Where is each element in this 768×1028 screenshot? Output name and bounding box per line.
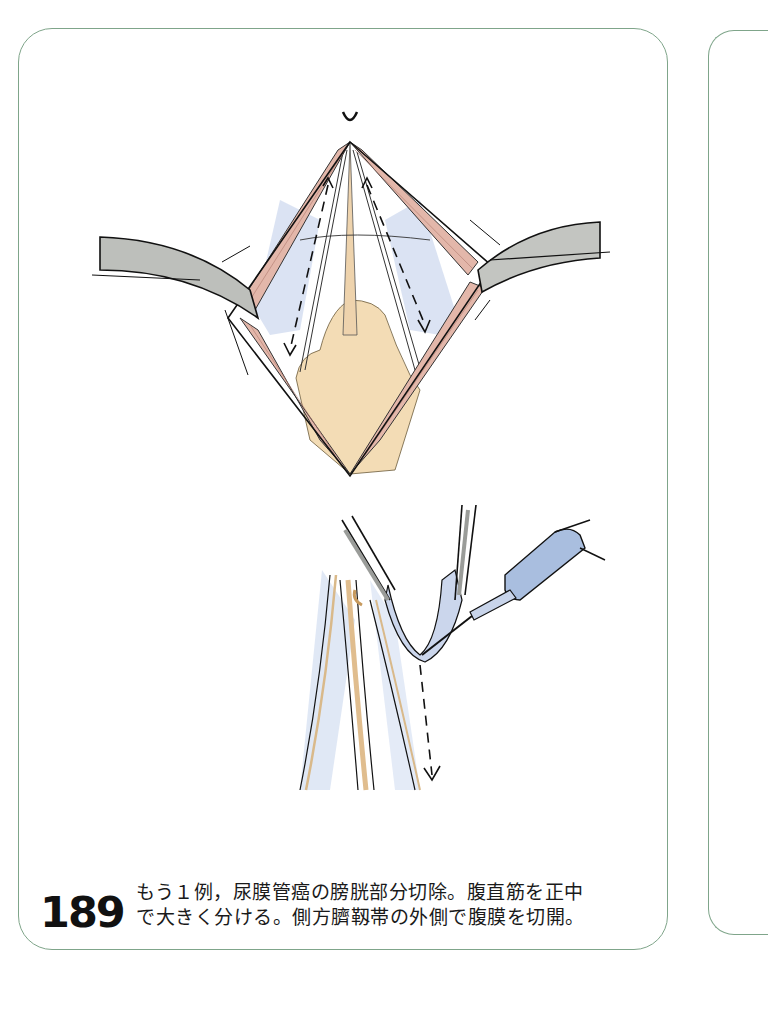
caption-text: もう１例，尿膜管癌の膀胱部分切除。腹直筋を正中 で大きく分ける。側方臍靱帯の外側… bbox=[136, 880, 585, 930]
lower-illustration bbox=[300, 505, 605, 790]
upper-illustration bbox=[92, 112, 610, 476]
caption-line-1: もう１例，尿膜管癌の膀胱部分切除。腹直筋を正中 bbox=[136, 880, 585, 905]
caption-line-2: で大きく分ける。側方臍靱帯の外側で腹膜を切開。 bbox=[136, 905, 585, 930]
figure-number: 189 bbox=[40, 888, 124, 936]
adjacent-page-frame bbox=[708, 30, 768, 935]
figure-caption: 189 もう１例，尿膜管癌の膀胱部分切除。腹直筋を正中 で大きく分ける。側方臍靱… bbox=[40, 878, 680, 938]
